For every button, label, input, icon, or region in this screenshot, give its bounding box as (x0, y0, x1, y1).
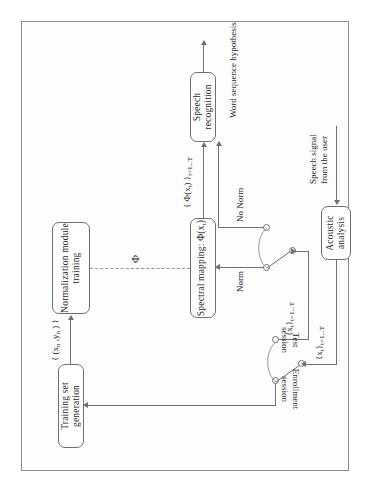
box-normalization-module-training[interactable]: Normalization module training (52, 222, 90, 314)
box-acoustic-analysis[interactable]: Acoustic analysis (321, 206, 351, 260)
training-pairs-sub2: n (54, 331, 62, 335)
arrowhead-trainingset-to-normalization (68, 315, 74, 320)
arrowhead-norm-into-spectralmapping (215, 265, 220, 271)
edge-spectralmapping-to-recognition (203, 146, 204, 218)
input-signal-line2: from the user (319, 136, 329, 184)
phi-glyph: Φ (129, 255, 141, 263)
arrowhead-nonorm-to-recognition (216, 141, 222, 146)
box-normalization-line2: training (71, 252, 82, 283)
edge-acoustic-to-session (336, 260, 337, 365)
arrowhead-featurebus-to-switch (291, 249, 296, 255)
enrollment-session-line2: session (281, 376, 291, 402)
label-training-pairs: { (xn ,yn ) } (50, 319, 63, 361)
arrowhead-enrollment-to-trainingset (83, 403, 88, 409)
spectral-mapping-suffix: ) (196, 220, 206, 223)
mapped-close: ) } (182, 176, 192, 186)
label-phi: Φ (130, 255, 141, 263)
label-speech-signal-input: Speech signal from the user (308, 98, 329, 184)
arrowhead-acoustic-to-session (301, 362, 306, 368)
box-speech-recognition-label: Speech recognition (192, 73, 214, 141)
box-training-set-generation-label: Training set generation (60, 365, 82, 447)
mapped-sub: t (186, 185, 194, 187)
spectral-mapping-fn: Φ(x (196, 225, 206, 240)
edge-input-to-acoustic (336, 126, 337, 202)
box-acoustic-line2: analysis (336, 217, 347, 249)
label-enrollment-session: Enrollment session (280, 360, 301, 418)
features-enroll-open: {x (314, 351, 324, 360)
edge-nonorm-horizontal (218, 144, 219, 228)
features-enroll-close: } (314, 345, 324, 349)
edge-recognition-to-output (203, 44, 204, 72)
label-word-sequence-hypothesis: Word sequence hypothesis (228, 22, 239, 118)
edge-trainingset-to-normalization (70, 319, 71, 364)
edge-norm-into-spectralmapping (216, 267, 264, 268)
spectral-mapping-sub: t (200, 223, 208, 225)
training-pairs-open: { (x (50, 347, 60, 361)
norm-switch-graphic (258, 210, 304, 280)
arrowhead-input-to-acoustic (334, 200, 340, 205)
box-acoustic-line1: Acoustic (325, 215, 336, 250)
edge-enrollment-to-trainingset (84, 405, 275, 406)
box-normalization-line1: Normalization module (60, 223, 71, 313)
features-enroll-sub: t (318, 349, 326, 351)
label-test-session: Test session (280, 318, 301, 362)
mapped-open: { Φ(x (182, 187, 192, 208)
training-pairs-mid: ,y (50, 334, 60, 343)
box-spectral-mapping[interactable]: Spectral mapping: Φ(xt) (190, 218, 216, 318)
training-pairs-sub1: n (54, 343, 62, 347)
norm-switch[interactable] (258, 210, 304, 280)
enrollment-session-line1: Enrollment (291, 369, 301, 410)
arrowhead-spectralmapping-to-recognition (201, 142, 207, 147)
training-pairs-close: ) } (50, 319, 60, 331)
diagram-canvas: Training set generation { (xn ,yn ) } No… (22, 22, 348, 470)
mapped-range: t=1...T (186, 157, 194, 176)
box-training-set-generation[interactable]: Training set generation (58, 364, 84, 448)
arrowhead-recognition-to-output (201, 40, 207, 45)
label-no-norm: No Norm (235, 188, 246, 222)
spectral-mapping-prefix: Spectral mapping: (196, 241, 206, 316)
box-spectral-mapping-label: Spectral mapping: Φ(xt) (196, 220, 210, 316)
box-speech-recognition[interactable]: Speech recognition (190, 72, 216, 142)
edge-phi-dashed-seg (90, 268, 190, 269)
edge-session-pivot-down (303, 364, 336, 365)
test-session-line2: session (281, 327, 291, 353)
features-enroll-range: t=1...T (318, 326, 326, 345)
label-features-enroll: {xt}t=1...T (314, 326, 327, 360)
test-session-line1: Test (291, 333, 301, 348)
edge-switch-to-featurebus (294, 251, 308, 252)
label-norm: Norm (235, 271, 246, 292)
diagram-page: Training set generation { (xn ,yn ) } No… (0, 0, 370, 492)
label-mapped-features: { Φ(xt) }t=1...T (182, 157, 195, 208)
input-signal-line1: Speech signal (308, 134, 318, 184)
